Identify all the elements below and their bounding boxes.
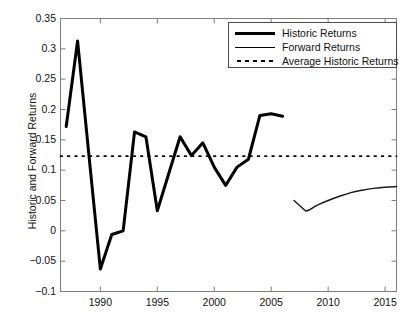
chart-legend[interactable]: Historic Returns Forward Returns Average… [228, 22, 397, 68]
legend-label: Average Historic Returns [282, 55, 399, 67]
legend-item-average-historic-returns[interactable]: Average Historic Returns [233, 54, 392, 67]
dotted-line-sample-icon [233, 55, 277, 67]
x-tick-label: 2000 [189, 296, 239, 308]
thick-line-sample-icon [233, 27, 277, 39]
legend-item-historic-returns[interactable]: Historic Returns [233, 26, 392, 39]
legend-item-forward-returns[interactable]: Forward Returns [233, 40, 392, 53]
x-tick-label: 1995 [132, 296, 182, 308]
x-tick-label: 2015 [360, 296, 410, 308]
figure-canvas: −0.1−0.0500.050.10.150.20.250.30.35 1990… [0, 0, 418, 327]
thin-line-sample-icon [233, 41, 277, 53]
x-tick-label: 2010 [303, 296, 353, 308]
legend-label: Historic Returns [282, 27, 357, 39]
y-axis-label: Historic and Forward Returns [26, 61, 38, 261]
x-tick-label: 1990 [75, 296, 125, 308]
x-tick-label: 2005 [246, 296, 296, 308]
legend-label: Forward Returns [282, 41, 360, 53]
